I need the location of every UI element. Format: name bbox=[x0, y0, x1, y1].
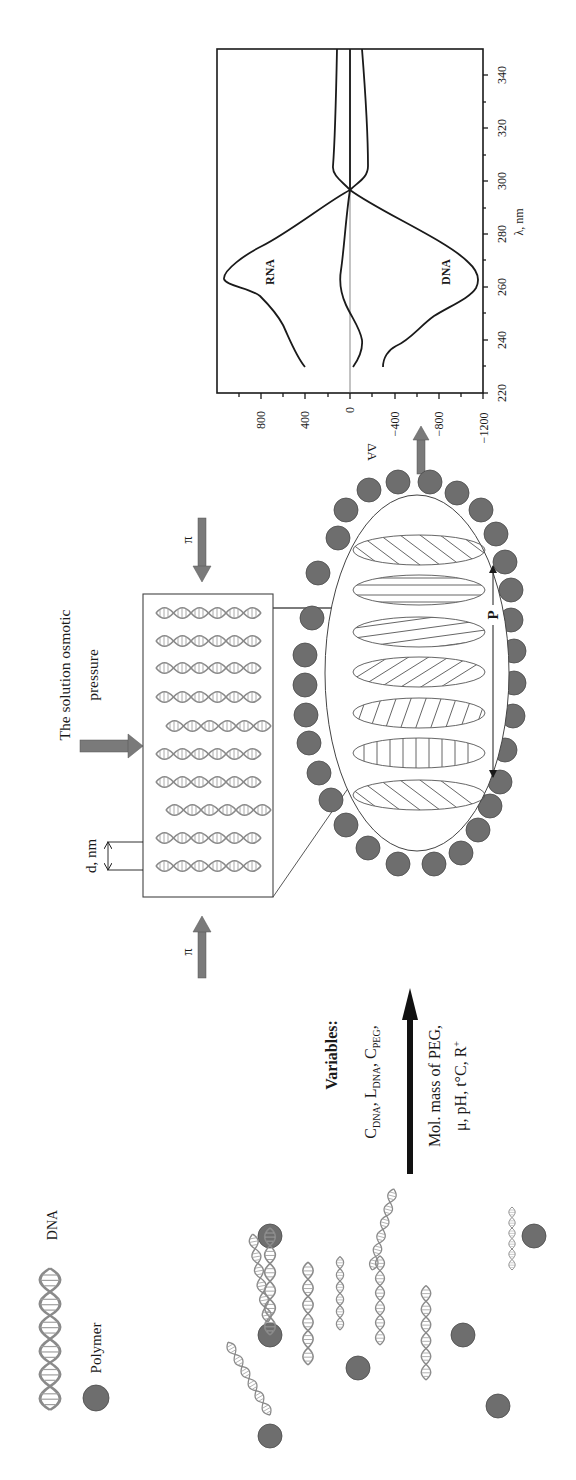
pi-arrow-top bbox=[193, 518, 211, 582]
pi-label-bottom: π bbox=[180, 948, 195, 955]
pitch-label: P bbox=[485, 610, 501, 619]
legend-dna-icon bbox=[40, 1268, 60, 1410]
spacing-marker bbox=[107, 842, 143, 870]
tick-300: 300 bbox=[495, 172, 509, 190]
variables-line2: Mol. mass of PEG, bbox=[426, 1025, 443, 1147]
lambda-axis-label: λ, nm bbox=[512, 208, 526, 236]
cd-spectrum-chart: 800 400 0 −400 −800 −1200 ΔA 220 240 bbox=[217, 49, 526, 461]
dna-curve-label: DNA bbox=[439, 259, 453, 285]
legend-polymer-label: Polymer bbox=[88, 1323, 104, 1374]
tick-220: 220 bbox=[495, 384, 509, 402]
variables-line1: CDNA, LDNA, CPEG, bbox=[362, 1025, 382, 1138]
spacing-label: d, nm bbox=[83, 839, 99, 874]
variables-panel: Variables: CDNA, LDNA, CPEG, Mol. mass o… bbox=[323, 988, 470, 1174]
variables-arrow bbox=[402, 988, 418, 1174]
legend: DNA Polymer bbox=[40, 1209, 109, 1411]
tick-260: 260 bbox=[495, 278, 509, 296]
osmotic-title-line2: pressure bbox=[84, 649, 101, 701]
dna-polymer-solution bbox=[224, 1188, 546, 1448]
delta-a-axis-label: ΔA bbox=[365, 443, 380, 461]
dna-curve bbox=[350, 49, 478, 367]
variables-title: Variables: bbox=[323, 1020, 340, 1090]
tick-minus-800: −800 bbox=[432, 412, 446, 437]
delta-a-axis-ticks bbox=[239, 393, 483, 399]
tick-minus-400: −400 bbox=[388, 412, 402, 437]
delta-a-tick-labels: 800 400 0 −400 −800 −1200 bbox=[254, 407, 491, 443]
rna-curve bbox=[224, 49, 350, 367]
tick-800: 800 bbox=[254, 411, 268, 429]
tick-minus-1200: −1200 bbox=[477, 413, 491, 444]
pi-label-top: π bbox=[180, 536, 195, 543]
rna-curve-label: RNA bbox=[263, 259, 277, 285]
pi-arrow-bottom bbox=[193, 916, 211, 978]
pressure-arrow-side bbox=[80, 734, 143, 758]
tick-240: 240 bbox=[495, 331, 509, 349]
lambda-tick-labels: 220 240 260 280 300 320 340 bbox=[495, 66, 509, 402]
solution-dna-strands bbox=[224, 1188, 515, 1417]
dna-particle: P bbox=[293, 470, 526, 876]
figure-canvas: 800 400 0 −400 −800 −1200 ΔA 220 240 bbox=[0, 0, 576, 1480]
tick-320: 320 bbox=[495, 119, 509, 137]
legend-dna-label: DNA bbox=[45, 1209, 60, 1240]
tick-340: 340 bbox=[495, 66, 509, 84]
solution-polymers bbox=[258, 1224, 546, 1448]
legend-polymer-icon bbox=[83, 1385, 109, 1411]
to-chart-arrow bbox=[413, 426, 429, 474]
variables-line3: μ, pH, t°C, R+ bbox=[451, 1041, 470, 1131]
tick-400: 400 bbox=[298, 411, 312, 429]
osmotic-title-line1: The solution osmotic bbox=[56, 609, 73, 740]
middle-curve bbox=[340, 49, 362, 367]
tick-280: 280 bbox=[495, 225, 509, 243]
tick-0: 0 bbox=[343, 407, 357, 413]
particle-boundary bbox=[325, 495, 509, 851]
